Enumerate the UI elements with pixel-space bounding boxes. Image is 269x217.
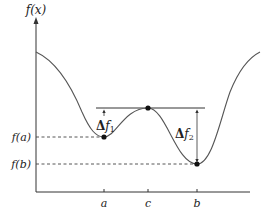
delta-f1-label: Δf1 bbox=[96, 119, 115, 134]
fa-label: f(a) bbox=[11, 131, 31, 144]
delta-f1-arrowhead-icon bbox=[102, 110, 105, 114]
local-minima-diagram: f(x) a c b f(a) f(b) Δf1 Δf2 bbox=[0, 0, 269, 217]
y-axis-arrow-icon bbox=[34, 17, 39, 24]
tick-label-a: a bbox=[101, 197, 108, 210]
point-c bbox=[145, 105, 150, 110]
tick-label-c: c bbox=[145, 197, 151, 210]
delta-f2-label: Δf2 bbox=[175, 127, 194, 142]
delta-f2-arrowhead-top-icon bbox=[195, 110, 198, 114]
y-axis-label: f(x) bbox=[25, 3, 47, 17]
tick-label-b: b bbox=[193, 197, 200, 210]
fb-label: f(b) bbox=[10, 158, 31, 171]
point-a bbox=[101, 134, 106, 139]
